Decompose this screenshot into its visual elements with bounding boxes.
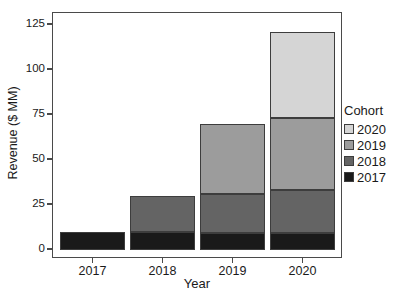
y-axis-title: Revenue ($ MM) [6,86,20,179]
bar-2019-segment-cohort-2017 [200,233,265,249]
y-tick-label-50: 50 [9,152,45,164]
revenue-by-cohort-stacked-bar-chart: Revenue ($ MM) 0255075100125 20172018201… [0,0,394,295]
bar-2020-segment-cohort-2018 [270,190,335,233]
bar-2018 [130,196,195,250]
bar-2017-segment-cohort-2017 [60,232,125,250]
y-tick-label-0: 0 [9,242,45,254]
x-tick-mark-2017 [92,258,94,263]
y-tick-mark-25 [47,203,52,205]
legend-item-2020: 2020 [344,121,386,137]
y-tick-mark-0 [47,248,52,250]
legend-items: 2020201920182017 [344,121,386,185]
bar-2020-segment-cohort-2017 [270,233,335,249]
bar-2020 [270,32,335,250]
x-tick-mark-2020 [302,258,304,263]
legend-label-2020: 2020 [357,122,386,137]
legend-item-2018: 2018 [344,153,386,169]
x-tick-label-2020: 2020 [273,264,333,278]
bar-2019-segment-cohort-2018 [200,194,265,234]
legend-item-2019: 2019 [344,137,386,153]
y-tick-mark-125 [47,23,52,25]
bar-2020-segment-cohort-2019 [270,118,335,190]
y-tick-mark-50 [47,158,52,160]
y-tick-mark-75 [47,113,52,115]
x-tick-label-2017: 2017 [63,264,123,278]
x-tick-mark-2018 [162,258,164,263]
legend-item-2017: 2017 [344,169,386,185]
y-tick-mark-100 [47,68,52,70]
bar-2018-segment-cohort-2018 [130,196,195,232]
bar-2017 [60,232,125,250]
legend: Cohort 2020201920182017 [344,103,386,185]
x-axis-title: Year [184,276,210,291]
y-tick-label-75: 75 [9,107,45,119]
y-tick-label-125: 125 [9,17,45,29]
bar-2019 [200,124,265,250]
legend-label-2018: 2018 [357,154,386,169]
x-tick-label-2019: 2019 [203,264,263,278]
plot-panel [52,12,342,258]
x-tick-mark-2019 [232,258,234,263]
legend-label-2017: 2017 [357,170,386,185]
bar-2020-segment-cohort-2020 [270,32,335,118]
legend-swatch-2018 [344,156,354,166]
legend-label-2019: 2019 [357,138,386,153]
legend-swatch-2020 [344,124,354,134]
legend-title: Cohort [344,103,386,118]
legend-swatch-2019 [344,140,354,150]
bar-2019-segment-cohort-2019 [200,124,265,194]
y-tick-label-25: 25 [9,197,45,209]
y-tick-label-100: 100 [9,62,45,74]
legend-swatch-2017 [344,172,354,182]
bar-2018-segment-cohort-2017 [130,232,195,250]
